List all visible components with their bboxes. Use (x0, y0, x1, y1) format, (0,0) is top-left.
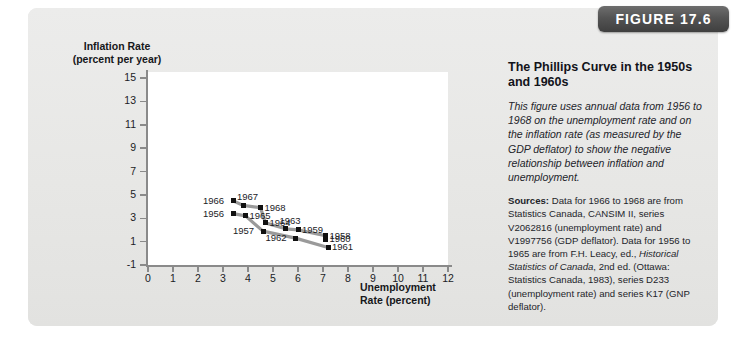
y-tick-label: 1 (110, 235, 136, 247)
data-point-label: 1967 (237, 191, 258, 202)
chart-area: Inflation Rate (percent per year) Unempl… (0, 0, 520, 318)
data-point-label: 1968 (265, 202, 286, 213)
y-tick (140, 194, 146, 196)
data-point (293, 236, 298, 241)
side-description: This figure uses annual data from 1956 t… (508, 99, 704, 184)
y-tick (140, 101, 146, 103)
y-tick (140, 218, 146, 220)
data-point (241, 203, 246, 208)
data-point-label: 1964 (270, 217, 291, 228)
data-point-label: 1962 (266, 232, 287, 243)
data-point (258, 205, 263, 210)
x-tick-label: 11 (413, 272, 433, 284)
y-tick-label: 15 (110, 71, 136, 83)
x-tick-label: 5 (263, 272, 283, 284)
data-point-label: 1966 (203, 195, 224, 206)
data-point (231, 198, 236, 203)
y-tick-label: 11 (110, 118, 136, 130)
figure-number-badge: FIGURE 17.6 (598, 6, 729, 32)
data-point-label: 1959 (302, 224, 323, 235)
data-point (243, 213, 248, 218)
x-tick-label: 0 (138, 272, 158, 284)
y-tick-label: 9 (110, 141, 136, 153)
data-point (231, 211, 236, 216)
x-tick-label: 9 (363, 272, 383, 284)
sources-label: Sources: (508, 195, 549, 206)
y-tick (140, 171, 146, 173)
data-point (323, 237, 328, 242)
x-tick-label: 10 (388, 272, 408, 284)
y-tick-label: 13 (110, 94, 136, 106)
data-point (326, 245, 331, 250)
data-point (263, 220, 268, 225)
side-title: The Phillips Curve in the 1950s and 1960… (508, 60, 704, 90)
y-tick-label: 7 (110, 165, 136, 177)
side-text-column: The Phillips Curve in the 1950s and 1960… (508, 60, 704, 313)
y-tick (140, 77, 146, 79)
x-tick-label: 2 (188, 272, 208, 284)
data-point-label: 1961 (332, 241, 353, 252)
y-tick (140, 241, 146, 243)
x-tick-label: 1 (163, 272, 183, 284)
y-tick (140, 264, 146, 266)
data-point-label: 1956 (203, 208, 224, 219)
y-tick-label: 3 (110, 211, 136, 223)
figure-number-label: FIGURE 17.6 (598, 11, 729, 27)
data-point (296, 227, 301, 232)
data-point-label: 1957 (233, 225, 254, 236)
side-sources: Sources: Data for 1966 to 1968 are from … (508, 194, 704, 313)
figure-root: FIGURE 17.6 Inflation Rate (percent per … (0, 0, 743, 340)
x-tick-label: 3 (213, 272, 233, 284)
x-tick-label: 7 (313, 272, 333, 284)
y-tick (140, 124, 146, 126)
x-tick-label: 8 (338, 272, 358, 284)
x-tick-label: 6 (288, 272, 308, 284)
y-tick (140, 147, 146, 149)
x-tick-label: 12 (438, 272, 458, 284)
y-tick-label: 5 (110, 188, 136, 200)
phillips-curve-line (0, 0, 520, 318)
x-tick-label: 4 (238, 272, 258, 284)
y-tick-label: -1 (110, 258, 136, 270)
